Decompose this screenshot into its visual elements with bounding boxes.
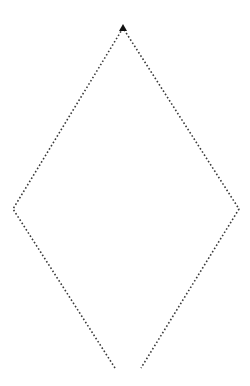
diagram-canvas bbox=[0, 0, 250, 386]
arrowhead-icon bbox=[119, 24, 127, 31]
dotted-rhombus-outline bbox=[13, 28, 239, 368]
rhombus-diagram bbox=[0, 0, 250, 386]
